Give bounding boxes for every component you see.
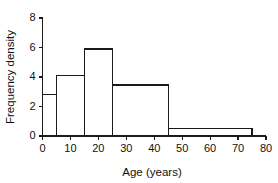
x-tick-label: 20	[92, 142, 104, 154]
histogram-bar	[112, 85, 168, 136]
x-tick-label: 80	[260, 142, 272, 154]
y-axis-tick-labels: 02468	[29, 11, 35, 141]
y-axis-title: Frequency density	[4, 30, 16, 124]
x-tick-label: 70	[232, 142, 244, 154]
histogram-bars	[43, 49, 253, 136]
histogram-bar	[43, 95, 57, 136]
frequency-density-histogram: 02468 01020304050607080 Age (years) Freq…	[0, 0, 278, 183]
x-tick-label: 10	[64, 142, 76, 154]
histogram-bar	[84, 49, 112, 136]
histogram-bar	[168, 129, 252, 136]
y-tick-label: 6	[29, 41, 35, 53]
y-tick-label: 8	[29, 11, 35, 23]
y-tick-label: 4	[29, 70, 35, 82]
axes	[43, 18, 267, 136]
y-tick-label: 2	[29, 100, 35, 112]
x-tick-label: 0	[39, 142, 45, 154]
x-axis-tick-labels: 01020304050607080	[39, 142, 272, 154]
x-tick-label: 60	[204, 142, 216, 154]
x-axis-title: Age (years)	[122, 166, 182, 178]
histogram-bar	[56, 76, 84, 136]
x-tick-label: 30	[120, 142, 132, 154]
x-tick-label: 50	[176, 142, 188, 154]
histogram-figure: 02468 01020304050607080 Age (years) Freq…	[0, 0, 278, 183]
y-tick-label: 0	[29, 129, 35, 141]
x-tick-label: 40	[148, 142, 160, 154]
